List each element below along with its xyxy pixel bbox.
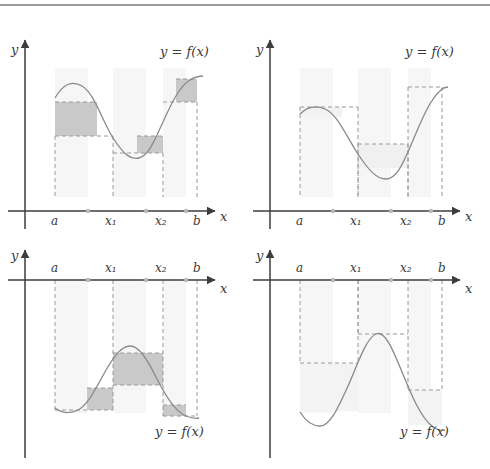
panel-2-x-axis-label: x [465, 209, 473, 224]
panel-2-tick-label-x2: x₂ [400, 214, 412, 228]
panel-2-tick-label-a: a [296, 214, 303, 228]
panel-1-x-axis-label: x [220, 209, 228, 224]
panel-top-right: y x a x₁ x₂ b y = f(x) [245, 14, 490, 248]
panel-4-tick-label-x2: x₂ [400, 261, 412, 275]
panel-2-y-axis-label: y [255, 42, 264, 57]
panel-2-curve-label: y = f(x) [404, 44, 454, 59]
panel-1-plot: y x a x₁ x₂ b y = f(x) [0, 14, 245, 248]
panel-1-y-axis-label: y [10, 42, 19, 57]
panel-3-y-axis-label: y [10, 248, 19, 263]
panel-2-tick-label-x1: x₁ [350, 214, 362, 228]
panel-3-plot: y x a x₁ x₂ b y = f(x) [0, 240, 245, 469]
panel-3-tick-label-x2: x₂ [155, 261, 167, 275]
panel-2-plot: y x a x₁ x₂ b y = f(x) [245, 14, 490, 248]
panel-1-tick-label-x1: x₁ [105, 214, 117, 228]
panel-4-tick-label-a: a [296, 261, 303, 275]
panel-bottom-left: y x a x₁ x₂ b y = f(x) [0, 240, 245, 469]
panel-4-curve-label: y = f(x) [399, 424, 449, 439]
panel-4-tick-label-x1: x₁ [350, 261, 362, 275]
panel-4-x-axis-label: x [465, 281, 473, 296]
panel-3-tick-label-b: b [193, 261, 201, 275]
panel-3-curve-label: y = f(x) [154, 424, 204, 439]
panel-4-y-axis-label: y [255, 248, 264, 263]
panel-1-tick-label-x2: x₂ [155, 214, 167, 228]
panel-4-plot: y x a x₁ x₂ b y = f(x) [245, 240, 490, 469]
panel-2-tick-label-b: b [438, 214, 446, 228]
panel-top-left: y x a x₁ x₂ b y = f(x) [0, 14, 245, 248]
panel-3-x-axis-label: x [220, 281, 228, 296]
panel-1-tick-label-b: b [193, 214, 201, 228]
panel-1-tick-label-a: a [51, 214, 58, 228]
panel-bottom-right: y x a x₁ x₂ b y = f(x) [245, 240, 490, 469]
riemann-sum-figure: y x a x₁ x₂ b y = f(x) [0, 0, 490, 469]
top-rule-divider [0, 4, 490, 6]
panel-4-tick-label-b: b [438, 261, 446, 275]
panel-1-curve-label: y = f(x) [159, 44, 209, 59]
panel-3-bands [55, 280, 186, 413]
panel-3-tick-label-x1: x₁ [105, 261, 117, 275]
panel-3-tick-label-a: a [51, 261, 58, 275]
